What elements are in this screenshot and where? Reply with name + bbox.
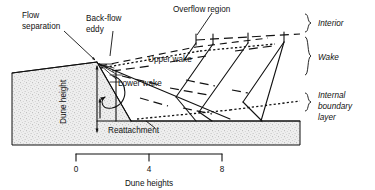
label-flow-separation-line1: Flow: [22, 11, 39, 20]
leader-overflow-region: [197, 13, 212, 35]
label-zone-ibl-line2: boundary: [318, 102, 353, 111]
leader-flow-separation: [64, 31, 95, 60]
label-flow-separation-line2: separation: [22, 22, 61, 31]
label-zone-wake: Wake: [318, 53, 339, 62]
dune-flow-diagram: Flow separation Back-flow eddy Overflow …: [0, 0, 375, 190]
zone-brace-wake: [305, 37, 311, 75]
label-upper-wake: Upper wake: [148, 55, 192, 64]
label-reattachment: Reattachment: [108, 126, 160, 135]
label-back-flow-eddy-line2: eddy: [86, 25, 105, 34]
label-zone-ibl-line1: Internal: [318, 91, 345, 100]
scale-tick-0: 0: [74, 165, 79, 174]
label-back-flow-eddy-line1: Back-flow: [86, 14, 122, 23]
scale-axis-label: Dune heights: [125, 179, 173, 188]
figure-canvas: Flow separation Back-flow eddy Overflow …: [0, 0, 375, 190]
scale-tick-8: 8: [220, 165, 225, 174]
label-overflow-region: Overflow region: [173, 5, 231, 14]
zone-brace-interior: [305, 14, 311, 32]
leader-back-flow-eddy: [110, 31, 113, 56]
label-zone-ibl-line3: layer: [318, 113, 336, 122]
zone-brace-ibl: [305, 93, 311, 111]
label-dune-height: Dune height: [59, 79, 68, 124]
label-lower-wake: Lower wake: [118, 79, 162, 88]
scale-bar: [76, 154, 222, 161]
scale-tick-4: 4: [147, 165, 152, 174]
label-zone-interior: Interior: [318, 19, 344, 28]
